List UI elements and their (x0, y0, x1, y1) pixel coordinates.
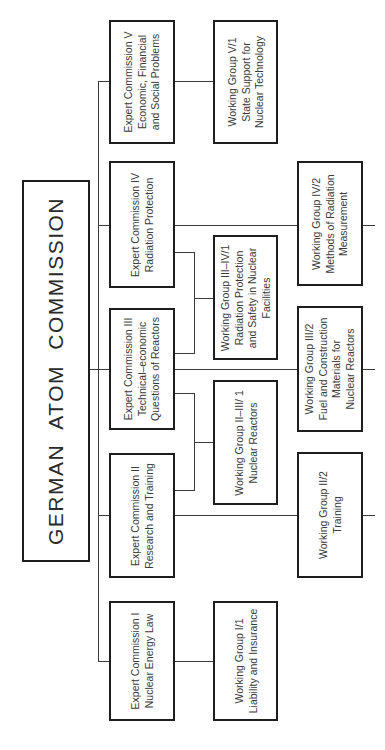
spine-to-ec1 (98, 661, 109, 662)
ec2-to-wg2-2 (175, 515, 297, 516)
ec4-line-1: Expert Commission IV (129, 173, 143, 277)
wg2-2-line-1: Working Group II/2 (317, 471, 331, 559)
wg3-2-line-3: Materials for (330, 318, 344, 421)
expert-commission-5: Expert Commission V Economic, Financial … (109, 20, 175, 144)
ec5-line-1: Expert Commission V (122, 32, 136, 133)
ec3-line-2: Technical–economic (135, 317, 149, 421)
wg5-1-line-2: State Support for (239, 36, 253, 128)
wg4-2-line-2: Methods of Radiation (323, 174, 337, 273)
spine-to-ec3 (98, 369, 109, 370)
spine-to-ec5 (98, 81, 109, 82)
wg1-1-line-2: Liability and Insurance (246, 609, 260, 713)
working-group-i-1: Working Group I/1 Liability and Insuranc… (213, 601, 278, 721)
ec4-line-2: Radiation Protection (142, 173, 156, 277)
spine-to-ec2 (98, 515, 109, 516)
ec2-to-wg2-3-1 (175, 490, 194, 491)
ec3-to-wg2-3-1 (175, 393, 194, 394)
root-title: GERMAN ATOM COMMISSION (49, 197, 63, 545)
working-group-ii-iii-1: Working Group II–III/ 1 Nuclear Reactors (213, 380, 278, 505)
working-group-v-1: Working Group V/1 State Support for Nucl… (213, 20, 278, 144)
wg3-2-line-1: Working Group III/2 (303, 318, 317, 421)
wg3-4-1-branch (194, 298, 213, 299)
expert-commission-2: Expert Commission II Research and Traini… (109, 453, 175, 578)
expert-commission-4: Expert Commission IV Radiation Protectio… (109, 161, 175, 288)
wg5-1-line-3: Nuclear Technology (252, 36, 266, 128)
ec3-line-3: Questions of Reactors (149, 317, 163, 421)
ec5-line-3: and Social Problems (149, 32, 163, 133)
wg2-2-stub (363, 515, 375, 516)
wg3-4-1-line-1: Working Group III–IV/1 (219, 244, 233, 351)
expert-commission-1: Expert Commission I Nuclear Energy Law (109, 601, 175, 721)
ec2-line-1: Expert Commission II (129, 463, 143, 569)
ec1-to-wg1-1 (175, 661, 213, 662)
spine-to-ec4 (98, 225, 109, 226)
wg3-4-1-line-4: Facilities (259, 244, 273, 351)
root-german-atom-commission: GERMAN ATOM COMMISSION (22, 180, 90, 562)
ec1-line-2: Nuclear Energy Law (142, 613, 156, 710)
wg2-3-1-branch (194, 442, 213, 443)
ec3-to-wg3-2 (175, 369, 297, 370)
wg5-1-line-1: Working Group V/1 (225, 36, 239, 128)
ec3-to-wg3-4-1 (175, 353, 194, 354)
working-group-iv-2: Working Group IV/2 Methods of Radiation … (297, 161, 363, 286)
wg3-4-1-line-2: Radiation Protection (232, 244, 246, 351)
wg3-2-line-2: Fuel and Construction (317, 318, 331, 421)
wg3-4-1-branch-vertical (194, 252, 195, 354)
ec4-to-wg3-4-1 (175, 252, 194, 253)
working-group-iii-iv-1: Working Group III–IV/1 Radiation Protect… (213, 235, 278, 360)
wg4-2-line-3: Measurement (337, 174, 351, 273)
wg4-2-stub (363, 225, 375, 226)
ec5-line-2: Economic, Financial (135, 32, 149, 133)
wg3-2-line-4: Nuclear Reactors (344, 318, 358, 421)
working-group-iii-2: Working Group III/2 Fuel and Constructio… (297, 306, 363, 432)
wg2-2-line-2: Training (330, 471, 344, 559)
wg4-2-line-1: Working Group IV/2 (310, 174, 324, 273)
wg1-1-line-1: Working Group I/1 (232, 609, 246, 713)
ec2-line-2: Research and Training (142, 463, 156, 569)
ec1-line-1: Expert Commission I (129, 613, 143, 710)
working-group-ii-2: Working Group II/2 Training (297, 452, 363, 578)
ec4-to-wg4-2 (175, 225, 297, 226)
ec3-line-1: Expert Commission III (122, 317, 136, 421)
wg2-3-1-line-1: Working Group II–III/ 1 (232, 390, 246, 495)
wg2-3-1-line-2: Nuclear Reactors (246, 390, 260, 495)
expert-commission-3: Expert Commission III Technical–economic… (109, 308, 175, 430)
wg3-4-1-line-3: and Safety in Nuclear (246, 244, 260, 351)
ec5-to-wg5-1 (175, 81, 213, 82)
wg3-2-stub (363, 369, 375, 370)
spine-line (98, 81, 99, 661)
